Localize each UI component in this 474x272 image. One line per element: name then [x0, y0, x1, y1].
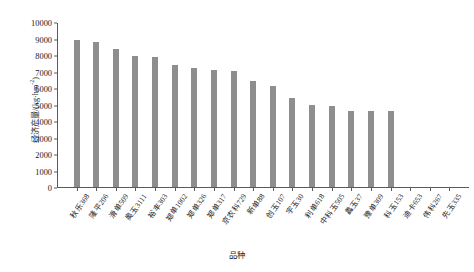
bar: [388, 111, 394, 187]
x-axis-tick-mark: [175, 188, 176, 191]
y-axis-tick-mark: [54, 122, 57, 123]
bar: [172, 65, 178, 187]
x-axis-line: [57, 187, 469, 188]
x-axis-tick-mark: [391, 188, 392, 191]
bar: [231, 71, 237, 187]
y-axis-line: [57, 23, 58, 188]
y-axis-tick-mark: [54, 56, 57, 57]
bar: [270, 86, 276, 187]
x-axis-tick-mark: [135, 188, 136, 191]
bar: [250, 81, 256, 187]
x-axis-tick-mark: [312, 188, 313, 191]
x-axis-tick-label: 秋乐368: [66, 191, 91, 220]
bar: [132, 56, 138, 187]
x-axis-tick-mark: [234, 188, 235, 191]
x-axis-tick-mark: [430, 188, 431, 191]
y-axis-tick-mark: [54, 105, 57, 106]
x-axis-tick-mark: [351, 188, 352, 191]
x-axis-tick-mark: [273, 188, 274, 191]
x-axis-tick-mark: [253, 188, 254, 191]
y-axis-tick-mark: [54, 155, 57, 156]
y-axis-tick-mark: [54, 23, 57, 24]
bar: [368, 111, 374, 187]
x-axis-tick-mark: [155, 188, 156, 191]
x-axis-tick-mark: [410, 188, 411, 191]
x-axis-title: 品种: [0, 248, 474, 260]
bar: [329, 106, 335, 187]
bar: [93, 42, 99, 187]
x-axis-tick-mark: [332, 188, 333, 191]
y-axis-tick-mark: [54, 188, 57, 189]
x-axis-tick-mark: [449, 188, 450, 191]
x-axis-tick-mark: [371, 188, 372, 191]
x-axis-tick-mark: [194, 188, 195, 191]
x-axis-tick-mark: [77, 188, 78, 191]
y-axis-tick-mark: [54, 39, 57, 40]
bar: [74, 40, 80, 187]
x-axis-tick-label: 豫单309: [361, 191, 386, 220]
y-axis-tick-mark: [54, 138, 57, 139]
x-axis-tick-mark: [214, 188, 215, 191]
y-axis-tick-mark: [54, 72, 57, 73]
x-axis-tick-label: 创玉107: [262, 191, 287, 220]
economic-yield-bar-chart: 经济产量/(kg·hm-2) 0100020003000400050006000…: [0, 0, 474, 272]
bar: [152, 57, 158, 187]
bar: [113, 49, 119, 187]
bar: [289, 98, 295, 187]
plot-area: 0100020003000400050006000700080009000100…: [57, 23, 469, 188]
x-axis-tick-mark: [116, 188, 117, 191]
bar: [309, 105, 315, 187]
x-axis-tick-mark: [292, 188, 293, 191]
bar: [348, 111, 354, 187]
x-axis-tick-label: 伟科267: [419, 191, 444, 220]
y-axis-tick-mark: [54, 171, 57, 172]
x-axis-tick-mark: [96, 188, 97, 191]
bar: [191, 68, 197, 187]
y-axis-title-tail: ): [31, 77, 40, 80]
bar: [211, 70, 217, 187]
y-axis-tick-mark: [54, 89, 57, 90]
